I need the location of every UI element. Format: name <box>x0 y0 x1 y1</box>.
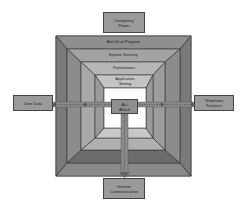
internet-communication-box: Internet Communication <box>103 178 145 199</box>
layer-label-permissions: Permissions <box>95 65 153 70</box>
layer-label-system-security: System Security <box>81 52 165 57</box>
telephone-features-box: Telephone Features <box>194 95 234 111</box>
center-act-attack-box: Act Attack <box>111 99 138 114</box>
security-layers-diagram: Anti-Virus Program System Security Permi… <box>0 0 246 213</box>
user-data-box: User Data <box>13 95 53 111</box>
computing-power-box: Computing Power <box>103 12 145 33</box>
layer-label-application-vetting: Application Vetting <box>104 76 146 86</box>
layer-label-anti-virus: Anti-Virus Program <box>67 39 180 44</box>
